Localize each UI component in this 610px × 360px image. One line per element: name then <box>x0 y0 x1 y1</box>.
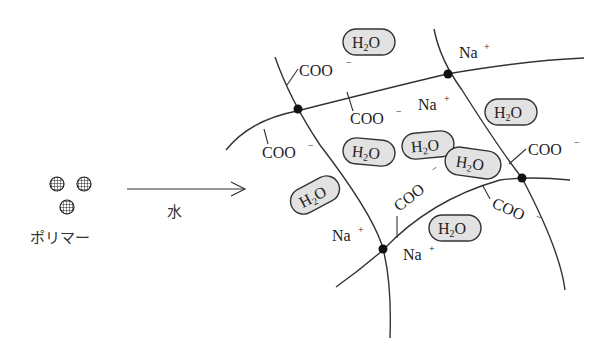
carboxylate-label: COO <box>262 144 296 161</box>
polymer-label: ポリマー <box>30 229 90 247</box>
sodium-ion-label: Na <box>418 96 437 113</box>
sodium-ion-label: Na <box>403 246 422 263</box>
negative-charge: − <box>346 57 352 68</box>
water-molecule: H2O <box>485 99 537 125</box>
positive-charge: + <box>358 224 364 235</box>
polymer-swelling-diagram: ポリマー 水 COO − COO − COO − <box>0 0 610 360</box>
negative-charge: − <box>574 137 580 148</box>
positive-charge: + <box>429 243 435 254</box>
sodium-ion-label: Na <box>332 227 351 244</box>
polymer-particle-icon <box>50 177 64 191</box>
carboxylate-label: COO <box>350 110 384 127</box>
water-molecule: H2O <box>286 171 344 218</box>
carboxylate-label: COO <box>528 141 562 158</box>
negative-charge: − <box>428 162 440 174</box>
positive-charge: + <box>484 41 490 52</box>
water-molecule: H2O <box>443 145 502 181</box>
water-label: 水 <box>167 203 182 221</box>
cross-link-dot <box>518 174 527 183</box>
carboxylate-label: COO <box>299 62 333 79</box>
cross-link-dot <box>294 105 303 114</box>
arrow-icon <box>127 182 245 196</box>
polymer-particle-icon <box>77 177 91 191</box>
carboxylate-label: COO <box>490 194 528 223</box>
positive-charge: + <box>444 93 450 104</box>
carboxylate-label: COO <box>390 180 427 214</box>
polymer-chains <box>226 29 584 338</box>
cross-link-dot <box>444 70 453 79</box>
water-molecule: H2O <box>429 215 481 241</box>
water-molecule: H2O <box>342 137 396 167</box>
negative-charge: − <box>396 106 402 117</box>
polymer-particles <box>50 177 91 214</box>
negative-charge: − <box>308 140 314 151</box>
sodium-ion-label: Na <box>459 44 478 61</box>
water-molecule: H2O <box>343 29 395 55</box>
cross-link-dot <box>379 245 388 254</box>
polymer-particle-icon <box>60 200 74 214</box>
